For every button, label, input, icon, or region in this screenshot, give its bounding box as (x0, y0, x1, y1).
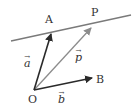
vector-arrow-accent-p: → (75, 48, 82, 55)
vector-label-b: → b (58, 94, 65, 105)
vector-label-a: → a (24, 58, 31, 69)
point-label-b: B (96, 74, 104, 85)
point-label-p: P (91, 7, 98, 18)
vector-label-p: → p (75, 52, 82, 63)
vector-arrow-accent-a: → (24, 54, 31, 61)
line-ap (11, 15, 131, 41)
point-label-o: O (28, 94, 37, 105)
vector-arrow-accent-b: → (58, 90, 65, 97)
vector-diagram: A P B O → a → p → b (0, 0, 139, 110)
diagram-svg (0, 0, 139, 110)
point-label-a: A (45, 14, 53, 25)
